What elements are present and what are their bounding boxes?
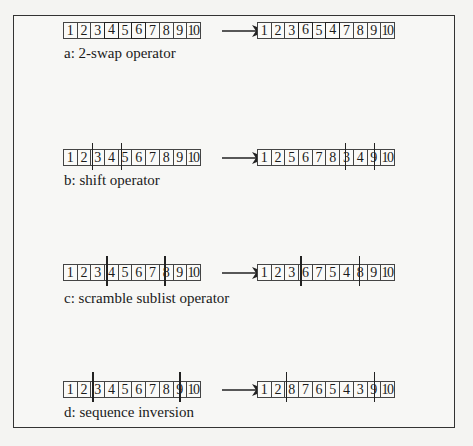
cut-marker	[164, 256, 166, 286]
cell: 1	[257, 149, 272, 166]
cut-marker	[300, 256, 302, 286]
cell: 4	[339, 264, 354, 281]
panel-a-caption: a: 2-swap operator	[64, 45, 176, 62]
cell: 8	[159, 22, 174, 39]
cell: 2	[271, 381, 286, 398]
cell: 6	[312, 381, 327, 398]
cell-highlighted: 4	[104, 22, 119, 39]
cell: 5	[325, 264, 340, 281]
cell: 7	[145, 264, 160, 281]
cell: 9	[367, 22, 382, 39]
cell: 6	[298, 149, 313, 166]
panel-a-after-sequence: 1 2 3 6 5 4 7 8 9 10	[257, 22, 395, 39]
cut-marker	[121, 143, 123, 170]
figure-frame	[13, 15, 455, 428]
cell: 1	[257, 381, 272, 398]
cell: 6	[131, 264, 146, 281]
cell: 8	[159, 149, 174, 166]
cell: 2	[77, 264, 92, 281]
cell: 9	[173, 149, 188, 166]
cell: 2	[77, 149, 92, 166]
cut-marker	[106, 256, 108, 286]
cell: 2	[271, 264, 286, 281]
cell: 5	[312, 22, 327, 39]
cell: 2	[271, 22, 286, 39]
cell: 4	[104, 149, 119, 166]
cell: 8	[159, 264, 174, 281]
cell: 4	[353, 149, 368, 166]
cell: 3	[353, 381, 368, 398]
cell-highlighted: 6	[298, 22, 313, 39]
cell: 7	[312, 264, 327, 281]
cell: 10	[380, 149, 395, 166]
cell: 5	[325, 381, 340, 398]
cut-marker	[92, 143, 94, 170]
cell: 4	[104, 381, 119, 398]
cell: 8	[159, 381, 174, 398]
panel-c-after-sequence: 1 2 3 6 7 5 4 8 9 10	[257, 264, 395, 281]
cell: 10	[186, 149, 201, 166]
cell: 7	[145, 381, 160, 398]
cell: 9	[367, 264, 382, 281]
panel-c-caption: c: scramble sublist operator	[64, 290, 229, 307]
cell: 5	[284, 149, 299, 166]
cell: 10	[186, 264, 201, 281]
cell: 6	[131, 381, 146, 398]
cell: 1	[63, 149, 78, 166]
panel-d-caption: d: sequence inversion	[64, 404, 194, 421]
cell: 7	[145, 149, 160, 166]
cell: 1	[257, 264, 272, 281]
cell: 10	[380, 264, 395, 281]
panel-c-before-sequence: 1 2 3 4 5 6 7 8 9 10	[63, 264, 201, 281]
cell: 5	[118, 22, 133, 39]
panel-b-caption: b: shift operator	[64, 172, 160, 189]
cell: 2	[271, 149, 286, 166]
cell-highlighted: 4	[325, 22, 340, 39]
cut-marker	[286, 372, 288, 402]
cell: 5	[118, 381, 133, 398]
cell: 3	[284, 264, 299, 281]
cell: 10	[380, 381, 395, 398]
cut-marker	[345, 143, 347, 170]
cell: 2	[77, 22, 92, 39]
cut-marker	[374, 372, 376, 402]
cell: 8	[353, 22, 368, 39]
cell: 10	[186, 381, 201, 398]
cut-marker	[179, 372, 181, 402]
cut-marker	[359, 256, 361, 286]
cell: 10	[380, 22, 395, 39]
cell: 3	[90, 22, 105, 39]
cell: 7	[145, 22, 160, 39]
cell-highlighted: 6	[131, 22, 146, 39]
cell: 10	[186, 22, 201, 39]
cell: 1	[257, 22, 272, 39]
cut-marker	[92, 372, 94, 402]
cell: 9	[173, 22, 188, 39]
cell: 4	[339, 381, 354, 398]
cell: 3	[339, 149, 354, 166]
panel-b-before-sequence: 1 2 3 4 5 6 7 8 9 10	[63, 149, 201, 166]
cell: 1	[63, 381, 78, 398]
cell: 2	[77, 381, 92, 398]
cell: 7	[339, 22, 354, 39]
cell: 8	[325, 149, 340, 166]
cell: 3	[90, 264, 105, 281]
cell: 9	[173, 264, 188, 281]
cell: 7	[312, 149, 327, 166]
cell: 8	[353, 264, 368, 281]
cell: 3	[284, 22, 299, 39]
cell: 1	[63, 264, 78, 281]
cell: 5	[118, 264, 133, 281]
cut-marker	[374, 143, 376, 170]
cell: 6	[131, 149, 146, 166]
cell: 7	[298, 381, 313, 398]
panel-a-before-sequence: 1 2 3 4 5 6 7 8 9 10	[63, 22, 201, 39]
cell: 1	[63, 22, 78, 39]
